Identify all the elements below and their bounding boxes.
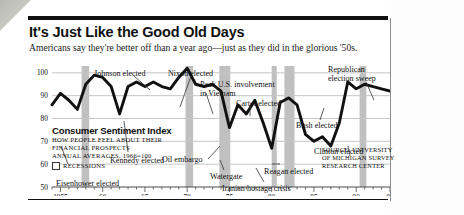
consumer-sentiment-chart: 100908070605019556065707580859094Eisenho… — [28, 60, 390, 196]
x-axis-tick-label: 60 — [99, 194, 107, 196]
source-line-1: Source: University — [322, 146, 406, 154]
legend-key-recessions: Recessions — [52, 162, 212, 170]
chart-annotation-label: Republican — [328, 65, 365, 74]
bottom-rule — [28, 199, 388, 200]
y-axis-tick-label: 90 — [41, 91, 49, 100]
chart-annotation-label: Peak U.S. involvement — [200, 80, 275, 89]
column-divider-rule — [390, 18, 391, 201]
x-axis-tick-label: 90 — [353, 194, 361, 196]
top-rule — [28, 16, 388, 20]
chart-annotation-label: Bush elected — [296, 121, 338, 130]
chart-annotation-label: Watergate — [210, 172, 243, 181]
annotation-leader-line — [256, 168, 264, 182]
chart-annotation-label: Reagan elected — [264, 167, 313, 176]
page-title: It's Just Like the Good Old Days — [29, 24, 385, 40]
chart-legend: Consumer Sentiment Index How people feel… — [52, 125, 212, 170]
chart-source: Source: University of Michigan Survey Re… — [322, 146, 406, 170]
legend-title: Consumer Sentiment Index — [52, 125, 212, 136]
legend-line-2: financial prospects — [52, 144, 212, 152]
source-line-2: of Michigan Survey — [322, 154, 406, 162]
x-axis-tick-label: 85 — [310, 194, 318, 196]
x-axis-tick-label: 94 — [386, 194, 390, 196]
chart-annotation-label: Carter elected — [236, 99, 281, 108]
chart-annotation-label: in Vietnam — [200, 89, 236, 98]
subtitle-deck: Americans say they're better off than a … — [29, 42, 389, 53]
x-axis-tick-label: 65 — [141, 194, 149, 196]
legend-key-label: Recessions — [63, 162, 105, 170]
legend-line-3: Annual averages, 1966=100 — [52, 152, 212, 160]
chart-annotation-label: Iranian hostage crisis — [222, 184, 291, 193]
y-axis-tick-label: 60 — [41, 160, 49, 169]
y-axis-tick-label: 80 — [41, 114, 49, 123]
x-axis-tick-label: 80 — [268, 194, 276, 196]
legend-line-1: How people feel about their — [52, 136, 212, 144]
x-axis-tick-label: 75 — [226, 194, 234, 196]
chart-annotation-label: Nixon elected — [168, 69, 213, 78]
y-axis-tick-label: 70 — [41, 137, 49, 146]
source-line-3: Research Center — [322, 162, 406, 170]
x-axis-tick-label: 70 — [184, 194, 192, 196]
recession-swatch-icon — [52, 162, 60, 170]
chart-annotation-label: election sweep — [328, 74, 376, 83]
chart-annotation-label: Johnson elected — [94, 69, 145, 78]
y-axis-tick-label: 50 — [41, 183, 49, 192]
y-axis-tick-label: 100 — [37, 68, 48, 77]
x-axis-tick-label: 1955 — [53, 194, 68, 196]
chart-annotation-label: Eisenhower elected — [56, 179, 119, 188]
page-right-margin — [391, 0, 464, 215]
